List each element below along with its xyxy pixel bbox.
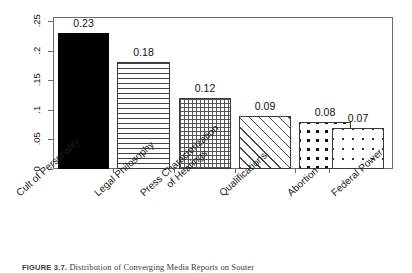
y-tick-4: [48, 51, 53, 52]
x-category-label-abortion: Abortion: [285, 165, 320, 198]
y-axis-label-2-text: .1: [32, 106, 42, 114]
bar-value-legal-philosophy: 0.18: [117, 47, 170, 58]
bar-value-press-characterization: 0.12: [179, 83, 231, 94]
y-axis-label-3: .15: [26, 75, 48, 85]
y-tick-2: [48, 110, 53, 111]
figure-caption-text: Distribution of Converging Media Reports…: [69, 262, 254, 272]
y-axis-label-1-text: .05: [32, 132, 42, 145]
y-axis-label-4-text: .2: [32, 47, 42, 55]
bar-value-qualifications: 0.09: [239, 101, 291, 112]
bar-value-federal-power: 0.07: [332, 113, 384, 124]
y-axis-label-5: .25: [26, 16, 48, 26]
y-tick-5: [48, 21, 53, 22]
y-tick-1: [48, 139, 53, 140]
figure-caption-number: FIGURE 3.7.: [22, 263, 67, 272]
figure-container: 0 .05 .1 .15 .2 .25 0.23 0.18 0.12 0.09 …: [0, 0, 412, 273]
y-axis-label-1: .05: [26, 134, 48, 144]
figure-caption: FIGURE 3.7. Distribution of Converging M…: [22, 262, 254, 272]
bar-value-cult-of-personality: 0.23: [58, 18, 109, 29]
y-axis-label-4: .2: [26, 46, 48, 56]
x-tick-4: [295, 169, 296, 173]
x-category-label-abortion-line1: Abortion: [285, 165, 320, 198]
y-axis-label-3-text: .15: [32, 73, 42, 86]
y-axis-label-2: .1: [26, 105, 48, 115]
y-axis-label-5-text: .25: [32, 14, 42, 27]
x-tick-5: [329, 169, 330, 173]
y-tick-3: [48, 80, 53, 81]
